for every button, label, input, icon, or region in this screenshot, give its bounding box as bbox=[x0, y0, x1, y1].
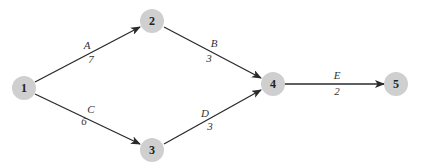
edge-e: E 2 bbox=[285, 69, 384, 97]
node-2-label: 2 bbox=[149, 14, 155, 28]
edge-c-arrow bbox=[35, 94, 140, 144]
edge-a-name: A bbox=[83, 39, 91, 51]
edge-c-weight: 6 bbox=[81, 115, 87, 127]
edge-c: C 6 bbox=[35, 94, 140, 144]
edge-e-weight: 2 bbox=[334, 85, 340, 97]
node-3-label: 3 bbox=[149, 143, 155, 157]
edge-a: A 7 bbox=[35, 27, 140, 82]
edge-c-name: C bbox=[87, 103, 95, 115]
node-2: 2 bbox=[140, 9, 164, 33]
edge-a-weight: 7 bbox=[88, 53, 94, 65]
edge-b-weight: 3 bbox=[205, 52, 212, 64]
edge-d-arrow bbox=[164, 90, 261, 144]
node-3: 3 bbox=[140, 138, 164, 162]
edge-d: D 3 bbox=[164, 90, 261, 144]
edge-b-arrow bbox=[164, 27, 261, 78]
node-4: 4 bbox=[261, 72, 285, 96]
edge-b: B 3 bbox=[164, 27, 261, 78]
edge-b-name: B bbox=[211, 37, 218, 49]
edge-d-weight: 3 bbox=[206, 120, 213, 132]
node-5-label: 5 bbox=[393, 77, 399, 91]
node-4-label: 4 bbox=[270, 77, 276, 91]
node-1-label: 1 bbox=[21, 81, 27, 95]
node-5: 5 bbox=[384, 72, 408, 96]
edge-d-name: D bbox=[200, 107, 209, 119]
edge-e-name: E bbox=[333, 69, 341, 81]
node-1: 1 bbox=[12, 76, 36, 100]
network-diagram: A 7 B 3 C 6 D 3 E 2 1 2 3 4 5 bbox=[0, 0, 423, 168]
